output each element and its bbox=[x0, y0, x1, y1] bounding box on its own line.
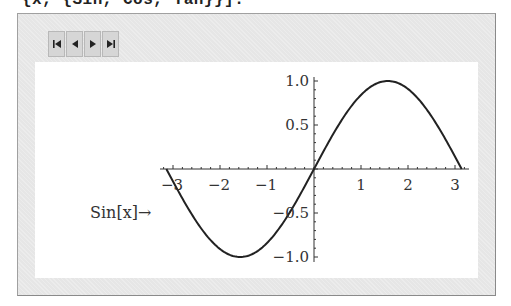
last-button[interactable] bbox=[102, 31, 119, 57]
svg-text:1.0: 1.0 bbox=[285, 72, 309, 90]
manipulate-frame: Sin[x]→ −3 −2 −1 1 2 3 1.0 0.5 bbox=[17, 13, 496, 296]
step-forward-icon bbox=[88, 39, 98, 49]
svg-text:3: 3 bbox=[450, 176, 460, 194]
previous-button[interactable] bbox=[66, 31, 83, 57]
svg-text:−1.0: −1.0 bbox=[273, 248, 309, 266]
plot-panel: Sin[x]→ −3 −2 −1 1 2 3 1.0 0.5 bbox=[35, 62, 478, 278]
next-button[interactable] bbox=[84, 31, 101, 57]
step-back-icon bbox=[70, 39, 80, 49]
sine-plot: −3 −2 −1 1 2 3 1.0 0.5 −0.5 −1.0 bbox=[35, 62, 478, 278]
svg-text:2: 2 bbox=[403, 176, 413, 194]
svg-text:−2: −2 bbox=[208, 176, 230, 194]
svg-text:−0.5: −0.5 bbox=[273, 204, 309, 222]
x-tick-labels: −3 −2 −1 1 2 3 bbox=[161, 176, 460, 194]
svg-text:−3: −3 bbox=[161, 176, 183, 194]
code-input-line: {x, {Sin, Cos, Tan}}]. bbox=[22, 0, 244, 9]
svg-text:−1: −1 bbox=[255, 176, 277, 194]
svg-text:1: 1 bbox=[356, 176, 366, 194]
svg-text:0.5: 0.5 bbox=[285, 116, 309, 134]
skip-to-last-icon bbox=[106, 39, 116, 49]
animation-controls bbox=[48, 31, 119, 57]
first-button[interactable] bbox=[48, 31, 65, 57]
skip-to-first-icon bbox=[52, 39, 62, 49]
